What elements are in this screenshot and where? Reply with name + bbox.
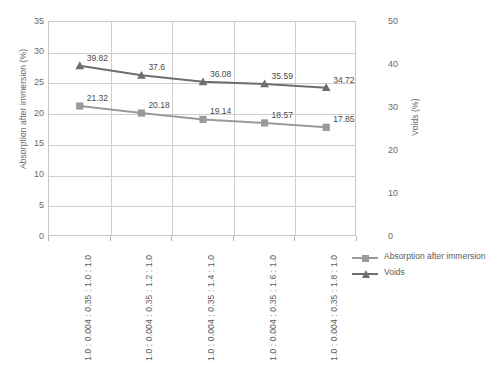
left-tick-label: 30 [18,47,44,56]
x-category-label: 1.0 : 0.004 : 0.35 : 1.8 : 1.0 [329,255,339,361]
x-category-label: 1.0 : 0.004 : 0.35 : 1.0 : 1.0 [83,255,93,361]
data-label: 39.82 [87,53,108,63]
left-tick-label: 20 [18,109,44,118]
marker-square [323,124,330,131]
right-tick-label: 30 [388,103,414,112]
left-tick-label: 10 [18,170,44,179]
data-label: 34.72 [333,75,354,85]
data-label: 17.85 [333,114,354,124]
right-tick-label: 20 [388,146,414,155]
data-label: 20.18 [148,100,169,110]
x-tickmark [233,236,234,241]
x-tickmark [294,236,295,241]
x-tickmark [356,236,357,241]
legend-label: Voids [384,267,405,277]
data-label: 37.6 [148,62,165,72]
legend-marker-square [362,255,369,262]
marker-square [261,119,268,126]
data-label: 18.57 [272,110,293,120]
left-tick-label: 35 [18,17,44,26]
right-tick-label: 50 [388,17,414,26]
x-tickmark [48,236,49,241]
data-label: 36.08 [210,69,231,79]
right-tick-label: 10 [388,189,414,198]
x-category-label: 1.0 : 0.004 : 0.35 : 1.2 : 1.0 [144,255,154,361]
x-tickmark [110,236,111,241]
right-tick-label: 40 [388,60,414,69]
legend-marker-triangle [362,270,370,278]
left-tick-label: 25 [18,78,44,87]
marker-square [76,102,83,109]
right-tick-label: 0 [388,232,414,241]
left-tick-label: 0 [18,232,44,241]
data-label: 19.14 [210,106,231,116]
x-category-label: 1.0 : 0.004 : 0.35 : 1.4 : 1.0 [206,255,216,361]
x-category-label: 1.0 : 0.004 : 0.35 : 1.6 : 1.0 [268,255,278,361]
left-tick-label: 5 [18,201,44,210]
marker-square [138,109,145,116]
data-label: 21.32 [87,93,108,103]
data-label: 35.59 [272,71,293,81]
left-tick-label: 15 [18,139,44,148]
legend-label: Absorption after immersion [384,251,486,261]
marker-square [199,116,206,123]
x-tickmark [171,236,172,241]
